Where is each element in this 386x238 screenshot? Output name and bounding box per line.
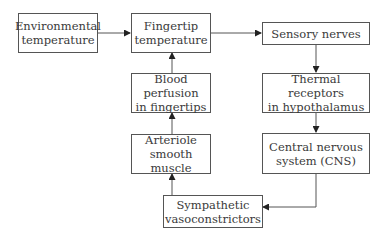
node-sympathetic-vasoconstrictors: Sympatheticvasoconstrictors	[163, 195, 263, 228]
node-label-line: temperature	[15, 33, 101, 47]
node-label-line: vasoconstrictors	[165, 212, 261, 226]
node-arteriole-smooth-muscle: Arteriolesmooth muscle	[131, 134, 211, 174]
node-sensory-nerves: Sensory nerves	[262, 22, 370, 45]
node-label-line: smooth muscle	[134, 147, 208, 175]
node-label-line: Arteriole	[134, 133, 208, 147]
arrow-cns-to-sympathetic	[263, 173, 316, 207]
node-thermal-receptors: Thermal receptorsin hypothalamus	[262, 73, 370, 113]
node-label-line: Central nervous	[269, 140, 363, 154]
node-label-line: in fingertips	[134, 100, 208, 114]
node-label-line: Blood perfusion	[134, 72, 208, 100]
node-label-line: Thermal receptors	[265, 72, 367, 100]
node-label-line: in hypothalamus	[265, 100, 367, 114]
node-central-nervous-system: Central nervoussystem (CNS)	[262, 133, 370, 174]
node-label-line: Sympathetic	[165, 198, 261, 212]
node-label-line: system (CNS)	[269, 154, 363, 168]
node-fingertip-temperature: Fingertiptemperature	[131, 13, 211, 53]
node-environmental-temperature: Environmentaltemperature	[18, 13, 98, 53]
node-label-line: Fingertip	[134, 19, 207, 33]
node-blood-perfusion: Blood perfusionin fingertips	[131, 73, 211, 113]
node-label-line: temperature	[134, 33, 207, 47]
node-label-line: Environmental	[15, 19, 101, 33]
node-label-line: Sensory nerves	[271, 27, 360, 41]
